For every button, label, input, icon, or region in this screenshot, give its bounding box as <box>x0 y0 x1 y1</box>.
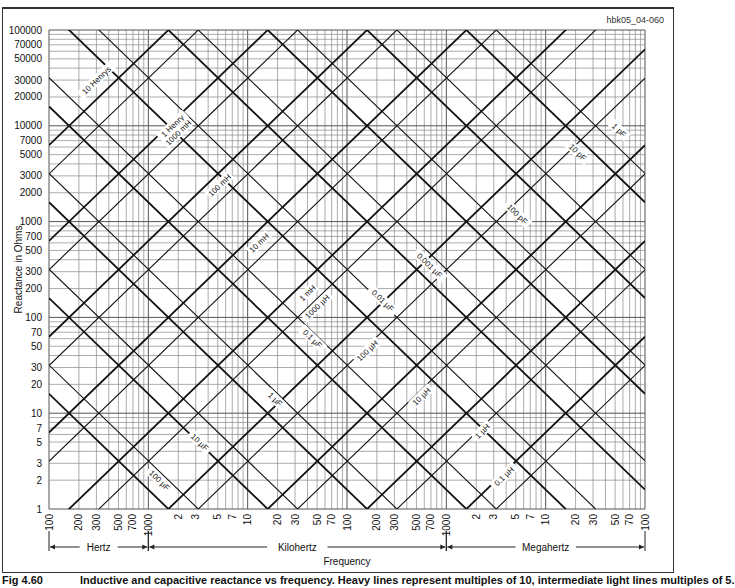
y-tick-label: 700 <box>25 231 42 242</box>
y-tick-label: 30 <box>31 362 43 373</box>
line-label: 100 µH <box>352 336 382 365</box>
y-tick-label: 70 <box>31 327 43 338</box>
x-tick-label: 20 <box>570 514 581 526</box>
x-tick-label: 200 <box>371 514 382 531</box>
y-tick-label: 3 <box>36 458 42 469</box>
x-tick-label: 20 <box>272 514 283 526</box>
x-tick-label: 10 <box>242 514 253 526</box>
y-tick-label: 70000 <box>14 39 42 50</box>
y-tick-label: 10 <box>31 408 43 419</box>
x-tick-label: 200 <box>73 514 84 531</box>
x-tick-label: 2 <box>471 514 482 520</box>
svg-text:100 pF: 100 pF <box>505 202 529 226</box>
y-tick-label: 7 <box>36 423 42 434</box>
y-tick-label: 10000 <box>14 120 42 131</box>
y-axis-title: Reactance in Ohms <box>13 226 24 314</box>
x-tick-label: 300 <box>91 514 102 531</box>
svg-text:0.1 µH: 0.1 µH <box>493 465 516 488</box>
range-label: Kilohertz <box>278 542 317 553</box>
caption-number: Fig 4.60 <box>2 574 80 586</box>
x-tick-label: 100 <box>342 514 353 531</box>
plot-area <box>49 0 645 588</box>
y-tick-label: 20 <box>31 379 43 390</box>
y-tick-label: 1000 <box>20 216 43 227</box>
x-tick-label: 30 <box>290 514 301 526</box>
x-tick-label: 30 <box>588 514 599 526</box>
y-tick-label: 20000 <box>14 91 42 102</box>
x-axis-title: Frequency <box>323 556 370 567</box>
line-label: 10 µH <box>408 383 434 409</box>
y-tick-label: 50000 <box>14 53 42 64</box>
x-tick-label: 7 <box>525 514 536 520</box>
x-tick-label: 50 <box>312 514 323 526</box>
y-tick-label: 50 <box>31 341 43 352</box>
x-tick-label: 100 <box>640 514 651 531</box>
line-label: 100 pF <box>503 199 533 228</box>
x-tick-label: 3 <box>190 514 201 520</box>
x-tick-label: 70 <box>326 514 337 526</box>
x-tick-label: 2 <box>173 514 184 520</box>
x-tick-label: 7 <box>227 514 238 520</box>
y-tick-label: 5000 <box>20 149 43 160</box>
frequency-ranges: HertzKilohertzMegahertz <box>49 531 645 553</box>
y-tick-label: 300 <box>25 266 42 277</box>
range-label: Hertz <box>87 542 111 553</box>
y-tick-label: 30000 <box>14 75 42 86</box>
y-tick-label: 100 <box>25 312 42 323</box>
svg-text:0.001 µF: 0.001 µF <box>415 251 444 280</box>
x-tick-label: 700 <box>425 514 436 531</box>
y-tick-label: 3000 <box>20 170 43 181</box>
x-tick-label: 3 <box>488 514 499 520</box>
caption-text: Inductive and capacitive reactance vs fr… <box>80 574 735 586</box>
x-tick-label: 100 <box>44 514 55 531</box>
x-tick-label: 5 <box>510 514 521 520</box>
x-tick-label: 300 <box>389 514 400 531</box>
y-axis: 1000007000050000300002000010000700050003… <box>9 25 43 515</box>
y-tick-label: 500 <box>25 245 42 256</box>
svg-text:100 µH: 100 µH <box>355 339 380 364</box>
figure-caption: Fig 4.60Inductive and capacitive reactan… <box>2 574 735 586</box>
x-tick-label: 70 <box>624 514 635 526</box>
y-tick-label: 5 <box>36 437 42 448</box>
x-tick-label: 700 <box>127 514 138 531</box>
y-tick-label: 2000 <box>20 187 43 198</box>
x-tick-label: 50 <box>610 514 621 526</box>
y-tick-label: 2 <box>36 475 42 486</box>
line-label: 1 µH <box>471 420 494 443</box>
y-tick-label: 7000 <box>20 135 43 146</box>
svg-text:0.01 µF: 0.01 µF <box>370 288 396 314</box>
x-tick-label: 5 <box>212 514 223 520</box>
x-axis: 1002003005007001000235710203050701002003… <box>44 514 651 537</box>
y-tick-label: 200 <box>25 283 42 294</box>
x-tick-label: 500 <box>113 514 124 531</box>
x-tick-label: 500 <box>411 514 422 531</box>
x-tick-label: 10 <box>540 514 551 526</box>
y-tick-label: 100000 <box>9 25 43 36</box>
y-tick-label: 1 <box>36 504 42 515</box>
range-label: Megahertz <box>522 542 569 553</box>
